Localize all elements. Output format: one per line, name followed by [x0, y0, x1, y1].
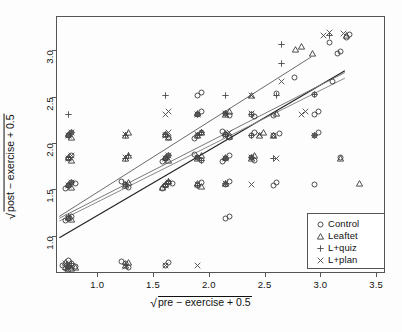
x-tick-mark	[97, 273, 98, 277]
y-tick-label: 1.5	[44, 189, 55, 203]
legend-row: Control	[308, 218, 384, 230]
circle-marker	[313, 221, 328, 228]
y-tick-label: 2.5	[44, 97, 55, 111]
legend-label: L+plan	[328, 254, 357, 266]
radical-sign-y: √	[5, 212, 17, 219]
legend-label: Leaftet	[328, 230, 358, 242]
x-tick-label: 1.0	[90, 279, 104, 290]
radical-sign-x: √	[150, 297, 157, 309]
x-tick-mark	[209, 273, 210, 277]
x-tick-label: 3.5	[369, 279, 383, 290]
y-tick-label: 2.0	[44, 143, 55, 157]
y-tick-label: 1.0	[44, 236, 55, 250]
x-tick-label: 3.0	[313, 279, 327, 290]
plus-marker	[313, 245, 328, 252]
x-tick-mark	[320, 273, 321, 277]
x-tick-label: 2.0	[202, 279, 216, 290]
triangle-marker	[313, 233, 328, 240]
scatter-plot-figure: √post − exercise + 0.5 √pre − exercise +…	[0, 0, 402, 332]
legend-label: Control	[328, 218, 359, 230]
x-axis-title: √pre − exercise + 0.5	[0, 296, 402, 309]
x-tick-mark	[153, 273, 154, 277]
y-axis-title: √post − exercise + 0.5	[2, 0, 18, 332]
legend-row: Leaftet	[308, 230, 384, 242]
legend-row: L+plan	[308, 254, 384, 266]
y-axis-title-text: post − exercise + 0.5	[4, 113, 16, 211]
x-tick-label: 1.5	[146, 279, 160, 290]
legend-box: ControlLeaftetL+quizL+plan	[307, 213, 385, 269]
legend-label: L+quiz	[328, 242, 357, 254]
legend-row: L+quiz	[308, 242, 384, 254]
x-tick-mark	[265, 273, 266, 277]
x-tick-mark	[376, 273, 377, 277]
cross-marker	[313, 257, 328, 264]
x-tick-label: 2.5	[258, 279, 272, 290]
x-axis-title-text: pre − exercise + 0.5	[158, 296, 252, 308]
y-tick-label: 3.0	[44, 50, 55, 64]
